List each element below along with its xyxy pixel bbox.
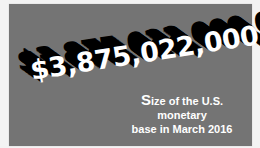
caption-line-2: base in March 2016 [117, 122, 247, 136]
caption-line-1: Size of the U.S. monetary [117, 93, 247, 122]
stat-card: $3,875,022,000,000 Size of the U.S. mone… [9, 4, 252, 146]
caption: Size of the U.S. monetary base in March … [117, 93, 247, 136]
caption-line-1-text: ize of the U.S. monetary [151, 95, 223, 121]
headline-value: $3,875,022,000,000 [28, 9, 260, 86]
headline-wrapper: $3,875,022,000,000 [25, 1, 260, 86]
caption-initial: S [141, 91, 151, 108]
